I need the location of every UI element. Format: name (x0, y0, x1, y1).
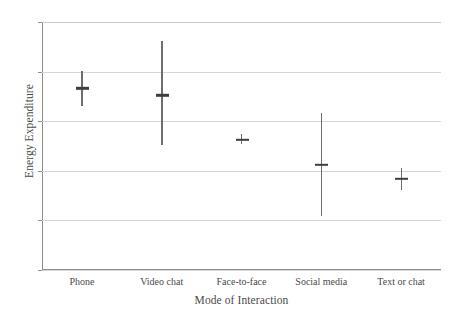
y-tick-mark (38, 72, 42, 73)
y-tick-mark (38, 270, 42, 271)
x-axis-title: Mode of Interaction (42, 294, 441, 306)
x-tick-label: Text or chat (346, 276, 455, 287)
y-tick-mark (38, 22, 42, 23)
energy-expenditure-chart: Energy Expenditure 2.53.03.54.04.55.0 Ph… (0, 0, 455, 317)
gridline (42, 22, 441, 23)
mean-marker (76, 87, 89, 89)
y-axis-title: Energy Expenditure (23, 51, 35, 211)
y-tick-mark (38, 220, 42, 221)
mean-marker (236, 139, 249, 141)
mean-marker (315, 164, 328, 166)
y-axis-line (42, 22, 43, 270)
gridline (42, 121, 441, 122)
y-tick-mark (38, 171, 42, 172)
plot-area: 2.53.03.54.04.55.0 PhoneVideo chatFace-t… (42, 22, 441, 270)
gridline (42, 72, 441, 73)
gridline (42, 220, 441, 221)
y-tick-mark (38, 121, 42, 122)
mean-marker (395, 178, 408, 180)
gridline (42, 171, 441, 172)
mean-marker (156, 94, 169, 96)
gridline (42, 270, 441, 271)
errorbar-line (161, 41, 162, 145)
